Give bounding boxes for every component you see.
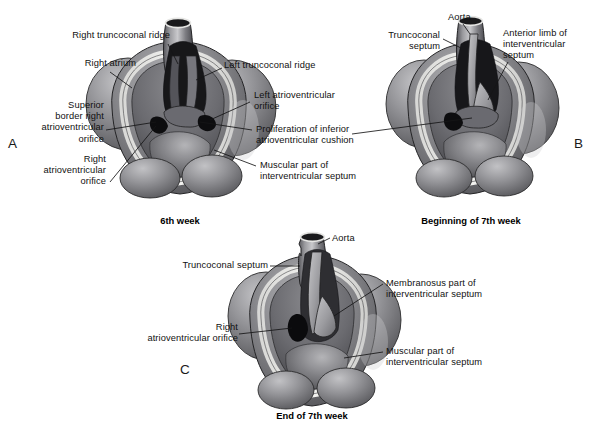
label-right-av-orifice-c: Right atrioventricular orifice [130,322,238,344]
caption-panel-b: Beginning of 7th week [406,215,536,226]
label-left-truncoconal-ridge: Left truncoconal ridge [224,60,354,71]
label-proliferation-inferior-av-cushion: Proliferation of inferior atrioventricul… [256,124,388,146]
panel-letter-c: C [180,362,190,377]
panel-a-heart [86,18,276,198]
label-right-av-orifice-a: Right atrioventricular orifice [22,154,106,188]
label-anterior-limb-ivs: Anterior limb of interventricular septum [503,28,599,62]
label-left-av-orifice: Left atrioventricular orifice [254,90,374,112]
label-superior-border-right-av-orifice: Superior border right atrioventricular o… [14,100,104,145]
panel-letter-a: A [8,136,17,151]
label-truncoconal-septum-c: Truncoconal septum [152,260,268,271]
label-membranosus-part-ivs: Membranosus part of interventricular sep… [386,278,522,300]
panel-c-leaders [239,238,383,358]
label-aorta-c: Aorta [332,233,384,244]
caption-panel-c: End of 7th week [252,410,372,421]
label-aorta-b: Aorta [448,12,498,23]
figure-canvas: Right truncoconal ridge Right atrium Sup… [0,0,601,443]
label-muscular-ivs-a: Muscular part of interventricular septum [260,160,388,182]
label-truncoconal-septum-b: Truncoconal septum [372,30,440,52]
caption-panel-a: 6th week [120,215,240,226]
label-right-truncoconal-ridge: Right truncoconal ridge [36,30,170,41]
panel-letter-b: B [574,136,583,151]
label-muscular-ivs-c: Muscular part of interventricular septum [386,346,520,368]
label-right-atrium: Right atrium [36,58,136,69]
